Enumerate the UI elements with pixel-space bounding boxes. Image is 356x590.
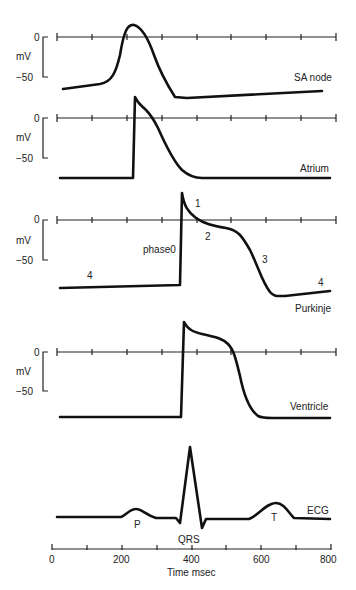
purkinje-label: Purkinje <box>295 303 332 314</box>
sa-node-label: SA node <box>294 72 332 83</box>
zero-line <box>57 348 336 356</box>
p-wave-label: P <box>134 519 141 530</box>
ecg-label: ECG <box>307 505 329 516</box>
qrs-label: QRS <box>178 534 200 545</box>
atrium-label: Atrium <box>300 163 329 174</box>
y-tick-zero: 0 <box>34 347 40 358</box>
t-wave-label: T <box>271 512 277 523</box>
y-axis-unit: mV <box>16 366 31 377</box>
y-tick-minus50: −50 <box>16 72 33 83</box>
y-tick-minus50: −50 <box>16 153 33 164</box>
y-scale-bracket <box>43 37 48 77</box>
y-scale-bracket <box>43 352 48 391</box>
panel-sa-node: 0 mV −50 SA node <box>16 25 336 98</box>
phase-2-label: 2 <box>205 231 211 242</box>
sa-node-trace <box>63 25 322 98</box>
phase-1-label: 1 <box>195 198 201 209</box>
y-scale-bracket <box>43 220 48 260</box>
zero-line <box>57 114 336 122</box>
phase-3-label: 3 <box>262 254 268 265</box>
y-scale-bracket <box>43 118 48 158</box>
y-tick-minus50: −50 <box>16 255 33 266</box>
y-tick-zero: 0 <box>34 113 40 124</box>
y-tick-zero: 0 <box>34 32 40 43</box>
y-axis-unit: mV <box>16 51 31 62</box>
y-axis-unit: mV <box>16 235 31 246</box>
atrium-trace <box>60 97 330 178</box>
y-tick-minus50: −50 <box>16 386 33 397</box>
phase-4-label-left: 4 <box>87 270 93 281</box>
ecg-trace <box>57 447 330 528</box>
panel-purkinje: 0 mV −50 1 2 3 4 4 phase0 Purkinje <box>16 193 336 314</box>
x-tick-0: 0 <box>49 554 55 565</box>
zero-line <box>57 33 336 41</box>
x-tick-600: 600 <box>253 554 270 565</box>
phase-4-label-right: 4 <box>318 277 324 288</box>
panel-ecg: P QRS T ECG <box>57 447 330 545</box>
ventricle-label: Ventricle <box>290 401 329 412</box>
y-axis-unit: mV <box>16 132 31 143</box>
y-tick-zero: 0 <box>34 214 40 225</box>
x-tick-200: 200 <box>113 554 130 565</box>
time-axis: 0 200 400 600 800 Time msec <box>49 544 337 578</box>
x-tick-800: 800 <box>320 554 337 565</box>
phase-0-label: phase0 <box>143 244 176 255</box>
panel-atrium: 0 mV −50 Atrium <box>16 97 336 178</box>
cardiac-action-potentials-figure: 0 mV −50 SA node 0 mV −50 Atrium 0 mV −5… <box>0 0 356 590</box>
panel-ventricle: 0 mV −50 Ventricle <box>16 322 336 418</box>
x-axis-title: Time msec <box>167 567 216 578</box>
x-tick-400: 400 <box>183 554 200 565</box>
